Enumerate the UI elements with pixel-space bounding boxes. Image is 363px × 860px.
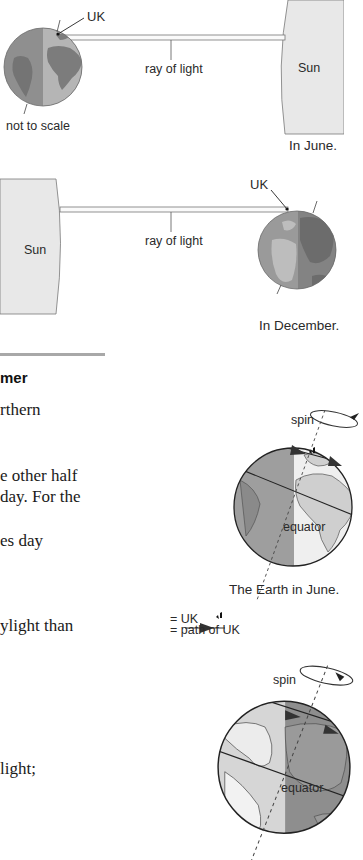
globe-june-caption: The Earth in June. (229, 582, 339, 597)
uk-label: UK (250, 177, 268, 192)
legend-path: = path of UK (170, 623, 240, 637)
section-divider (0, 353, 105, 356)
earth-globe-june (4, 18, 84, 114)
spin-label: spin (291, 413, 314, 427)
uk-marker-icon (216, 612, 222, 619)
text-line: es day (0, 531, 43, 551)
text-line: e other half (0, 466, 77, 486)
text-line: ylight than (0, 616, 73, 636)
text-line: day. For the (0, 487, 81, 507)
june-caption: In June. (289, 138, 337, 153)
equator-label: equator (281, 781, 323, 795)
december-caption: In December. (259, 318, 339, 333)
uk-label: UK (87, 9, 105, 24)
text-line: light; (0, 759, 36, 779)
sun-label: Sun (298, 61, 320, 75)
ray-of-light-label: ray of light (145, 234, 203, 248)
text-line: rthern (0, 400, 41, 420)
section-heading: mer (0, 369, 28, 386)
sun-label: Sun (24, 243, 46, 257)
not-to-scale-note: not to scale (6, 119, 70, 133)
equator-label: equator (283, 520, 325, 534)
spin-label: spin (273, 673, 296, 687)
earth-globe-december (258, 190, 338, 294)
ray-of-light-label: ray of light (145, 62, 203, 76)
